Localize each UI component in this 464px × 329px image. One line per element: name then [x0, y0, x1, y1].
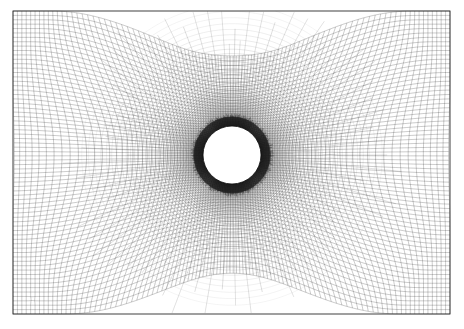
- cylinder-hole: [203, 126, 261, 184]
- mesh-svg: [0, 0, 464, 329]
- mesh-canvas: [0, 0, 464, 329]
- mesh-figure: [0, 0, 464, 329]
